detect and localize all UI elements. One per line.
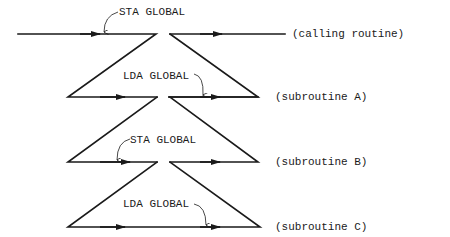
calling-line-left: [18, 34, 157, 97]
annotation-lda-global-a: LDA GLOBAL: [123, 70, 189, 82]
pointer-lda-a: [194, 74, 203, 95]
annotation-sta-global-top: STA GLOBAL: [119, 6, 185, 18]
return-a: [169, 34, 258, 97]
sub-b-right: [170, 97, 258, 162]
pointer-sta-top: [104, 12, 118, 32]
annotation-lda-global-c: LDA GLOBAL: [123, 198, 189, 210]
pointer-lda-c: [194, 204, 206, 225]
label-subroutine-b: (subroutine B): [275, 156, 367, 168]
label-subroutine-c: (subroutine C): [275, 221, 367, 233]
label-subroutine-a: (subroutine A): [275, 91, 367, 103]
label-calling-routine: (calling routine): [292, 28, 404, 40]
sub-b-down: [68, 162, 260, 227]
pointer-sta-b: [117, 139, 130, 160]
sub-a-left-down: [68, 97, 157, 162]
annotation-sta-global-b: STA GLOBAL: [130, 134, 196, 146]
